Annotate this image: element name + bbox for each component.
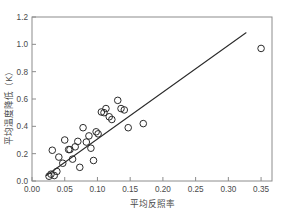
- y-tick-label: 0.4: [17, 122, 29, 131]
- y-tick-label: 1.2: [17, 13, 29, 22]
- data-point-marker: [140, 120, 147, 127]
- x-tick-label: 0.30: [220, 185, 236, 194]
- y-axis-tick-labels: 0.00.20.40.60.81.01.2: [17, 13, 29, 186]
- data-point-markers: [46, 45, 265, 179]
- y-tick-label: 1.0: [17, 40, 29, 49]
- data-point-marker: [86, 133, 93, 140]
- chart-figure: 0.00.20.40.60.81.01.2 0.000.050.100.150.…: [0, 0, 282, 211]
- data-point-marker: [114, 97, 121, 104]
- y-tick-label: 0.6: [17, 95, 29, 104]
- y-axis-title-container: 平均温度降低（K）: [1, 0, 14, 211]
- data-point-marker: [90, 157, 97, 164]
- x-axis-tick-labels: 0.000.050.100.150.200.250.300.35: [24, 185, 269, 194]
- x-tick-label: 0.35: [253, 185, 269, 194]
- data-point-marker: [75, 138, 82, 145]
- y-axis-title: 平均温度降低（K）: [2, 67, 14, 145]
- trend-line-group: [46, 33, 246, 176]
- data-point-marker: [80, 124, 87, 131]
- data-point-marker: [56, 154, 63, 161]
- x-axis-ticks: [32, 177, 261, 181]
- data-point-marker: [83, 139, 90, 146]
- data-point-marker: [125, 124, 132, 131]
- data-point-marker: [76, 164, 83, 171]
- x-axis-title: 平均反照率: [130, 198, 175, 209]
- data-point-marker: [88, 145, 95, 152]
- x-tick-label: 0.10: [89, 185, 105, 194]
- x-tick-label: 0.25: [188, 185, 204, 194]
- y-tick-label: 0.8: [17, 68, 29, 77]
- y-tick-label: 0.2: [17, 150, 29, 159]
- scatter-plot-canvas: 0.00.20.40.60.81.01.2 0.000.050.100.150.…: [0, 0, 282, 211]
- data-point-marker: [258, 45, 265, 52]
- data-point-marker: [49, 147, 56, 154]
- regression-trend-line: [46, 33, 246, 176]
- x-tick-label: 0.15: [122, 185, 138, 194]
- x-tick-label: 0.00: [24, 185, 40, 194]
- x-tick-label: 0.05: [57, 185, 73, 194]
- y-axis-ticks: [32, 17, 36, 181]
- x-tick-label: 0.20: [155, 185, 171, 194]
- plot-frame: [32, 17, 272, 181]
- data-point-marker: [61, 137, 68, 144]
- data-point-marker: [103, 105, 110, 112]
